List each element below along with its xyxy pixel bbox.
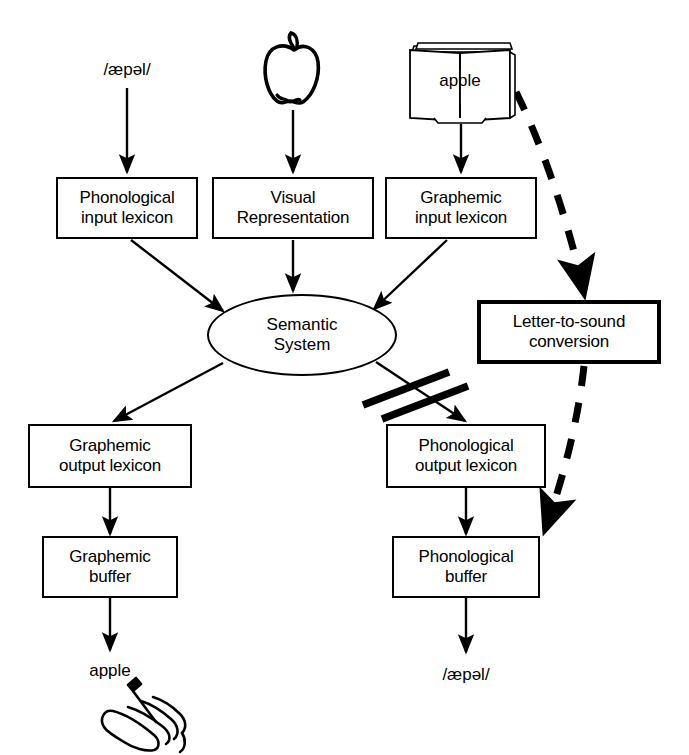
box-letter-to-sound-conversion[interactable]: Letter-to-sound conversion: [477, 300, 661, 364]
box-line-1: Phonological: [419, 436, 514, 456]
box-visual-representation[interactable]: Visual Representation: [212, 177, 374, 239]
box-phonological-buffer[interactable]: Phonological buffer: [392, 536, 540, 598]
diagram-connectors: [0, 0, 689, 755]
node-semantic-system[interactable]: Semantic System: [207, 294, 397, 376]
semantic-line-2: System: [274, 335, 331, 355]
hand-writing-with-pen-icon: [102, 678, 185, 752]
box-line-2: input lexicon: [415, 208, 507, 228]
box-line-1: Phonological: [419, 547, 514, 567]
box-phonological-input-lexicon[interactable]: Phonological input lexicon: [56, 177, 198, 239]
box-line-2: input lexicon: [81, 208, 173, 228]
spoken-output-label: /æpəl/: [427, 665, 505, 685]
written-input-label: apple: [421, 71, 499, 91]
box-line-2: output lexicon: [415, 456, 517, 476]
box-line-1: Graphemic: [420, 188, 501, 208]
box-graphemic-buffer[interactable]: Graphemic buffer: [42, 536, 178, 598]
semantic-line-1: Semantic: [267, 315, 338, 335]
box-line-2: output lexicon: [59, 456, 161, 476]
diagram-canvas: /æpəl/ apple apple /æpəl/ Phonological i…: [0, 0, 689, 755]
box-line-2: conversion: [529, 332, 609, 352]
box-line-2: buffer: [445, 567, 487, 587]
box-line-1: Graphemic: [69, 547, 150, 567]
spoken-input-label: /æpəl/: [87, 60, 167, 80]
arrow-semantic-to-graphemic-output: [114, 363, 223, 421]
dashed-arrow-letter-to-sound-to-phonological-buffer: [545, 366, 584, 530]
box-line-1: Graphemic: [69, 436, 150, 456]
box-phonological-output-lexicon[interactable]: Phonological output lexicon: [386, 424, 546, 488]
box-line-1: Phonological: [80, 188, 175, 208]
box-line-2: buffer: [89, 567, 131, 587]
arrow-phonological-input-to-semantic: [131, 240, 223, 311]
box-line-1: Letter-to-sound: [513, 312, 625, 332]
arrow-graphemic-input-to-semantic: [374, 240, 447, 309]
apple-outline-icon: [265, 33, 318, 103]
written-output-label: apple: [71, 661, 149, 681]
box-graphemic-output-lexicon[interactable]: Graphemic output lexicon: [28, 424, 192, 488]
box-graphemic-input-lexicon[interactable]: Graphemic input lexicon: [385, 177, 537, 239]
box-line-1: Visual: [271, 188, 316, 208]
box-line-2: Representation: [237, 208, 350, 228]
